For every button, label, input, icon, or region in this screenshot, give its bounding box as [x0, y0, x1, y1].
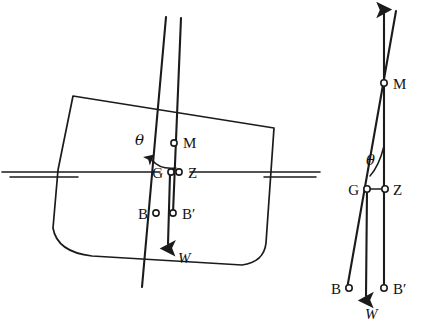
inclined-buoyancy-axis-right	[347, 11, 396, 289]
point-righting-z-right	[382, 186, 388, 192]
point-centre-of-gravity-left	[168, 169, 174, 175]
point-centre-of-gravity-right	[364, 186, 370, 192]
point-buoyancy-b-left	[153, 210, 159, 216]
label-buoyancy-b-left: B	[138, 206, 148, 222]
vertical-buoyancy-line	[173, 18, 181, 213]
label-heel-angle-right: θ	[366, 151, 375, 169]
label-weight-right: W	[365, 306, 379, 322]
point-metacentre-left	[171, 140, 177, 146]
label-heel-angle-left: θ	[135, 131, 144, 149]
right-panel-group: M G Z B B′ W θ	[331, 11, 406, 322]
hull-cross-section	[53, 96, 274, 265]
label-metacentre-right: M	[393, 76, 406, 92]
point-buoyancy-bprime-left	[170, 210, 176, 216]
label-metacentre-left: M	[183, 135, 196, 151]
label-centre-of-gravity-left: G	[152, 165, 163, 181]
label-buoyancy-bprime-right: B′	[393, 281, 406, 297]
left-panel-group: M G Z B B′ W θ	[2, 17, 320, 287]
weight-vector-arrow-right	[366, 190, 367, 296]
waterline-port	[2, 172, 160, 177]
point-buoyancy-bprime-right	[381, 285, 387, 291]
label-buoyancy-b-right: B	[331, 281, 341, 297]
waterline-starboard	[190, 172, 320, 177]
weight-vector-arrow	[168, 174, 170, 244]
ship-stability-diagram: M G Z B B′ W θ	[0, 0, 426, 323]
point-righting-z-left	[176, 169, 182, 175]
point-buoyancy-b-right	[346, 285, 352, 291]
label-centre-of-gravity-right: G	[348, 182, 359, 198]
hull-centreline-axis	[142, 17, 166, 287]
label-buoyancy-bprime-left: B′	[182, 206, 195, 222]
label-righting-z-right: Z	[393, 182, 402, 198]
stability-figure: M G Z B B′ W θ	[0, 0, 426, 323]
label-righting-z-left: Z	[188, 165, 197, 181]
point-metacentre-right	[381, 80, 387, 86]
label-weight-left: W	[178, 250, 192, 266]
